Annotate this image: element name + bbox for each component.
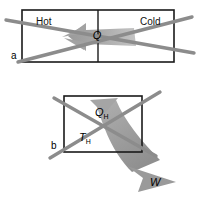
panel-b-label: b (51, 140, 57, 151)
hot-label: Hot (36, 16, 52, 27)
heat-in-subscript: H (104, 113, 109, 120)
panel-a-label: a (11, 50, 17, 61)
figure-root: Hot Cold Q a QH (0, 0, 200, 200)
heat-flow-label: Q (93, 29, 102, 41)
work-label: W (150, 176, 162, 188)
thermodynamics-figure: Hot Cold Q a QH (0, 0, 200, 200)
cold-label: Cold (140, 16, 161, 27)
temperature-subscript: H (86, 138, 91, 145)
